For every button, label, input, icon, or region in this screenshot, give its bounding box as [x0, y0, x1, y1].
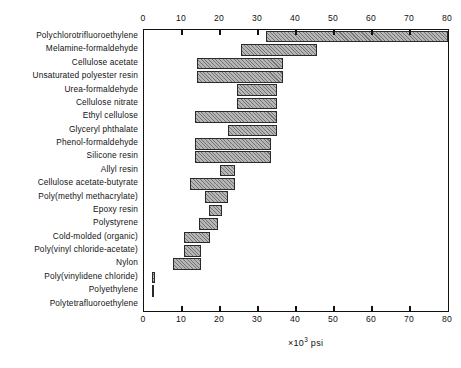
- x-ticklabel-bottom: 40: [282, 314, 308, 324]
- plot-inner: [144, 30, 448, 311]
- bar-range: [197, 71, 283, 83]
- bar-range: [197, 58, 283, 70]
- x-ticklabel-top: 20: [206, 13, 232, 23]
- bar-range: [184, 245, 201, 257]
- x-tick-bottom: [181, 306, 182, 312]
- x-tick-bottom: [409, 306, 410, 312]
- x-axis-title-suffix: psi: [311, 338, 323, 348]
- plot-area: [143, 29, 449, 312]
- category-label: Cold-molded (organic): [53, 230, 138, 243]
- x-axis-title-prefix: ×10: [288, 338, 304, 348]
- x-ticklabel-bottom: 70: [396, 314, 422, 324]
- bar-range: [184, 232, 211, 244]
- x-tick-top: [257, 29, 258, 35]
- category-label: Cellulose acetate: [72, 56, 138, 69]
- category-label: Poly(methyl methacrylate): [38, 190, 138, 203]
- x-tick-top: [333, 29, 334, 35]
- x-axis-title-exponent: 3: [304, 336, 308, 343]
- category-label: Polystyrene: [93, 216, 138, 229]
- x-ticklabel-bottom: 80: [434, 314, 460, 324]
- category-label: Silicone resin: [87, 149, 138, 162]
- x-tick-top: [371, 29, 372, 35]
- x-ticklabel-top: 10: [168, 13, 194, 23]
- category-label: Cellulose nitrate: [76, 96, 138, 109]
- category-label: Cellulose acetate-butyrate: [38, 176, 138, 189]
- x-ticklabel-bottom: 0: [130, 314, 156, 324]
- x-ticklabel-bottom: 60: [358, 314, 384, 324]
- category-label: Unsaturated polyester resin: [32, 69, 138, 82]
- category-label: Melamine-formaldehyde: [46, 42, 138, 55]
- x-ticklabel-top: 40: [282, 13, 308, 23]
- category-label: Allyl resin: [101, 163, 138, 176]
- x-tick-bottom: [219, 306, 220, 312]
- x-tick-top: [295, 29, 296, 35]
- bar-range: [237, 84, 277, 96]
- category-label: Poly(vinyl chloride-acetate): [34, 243, 138, 256]
- x-ticklabel-bottom: 10: [168, 314, 194, 324]
- x-tick-bottom: [371, 306, 372, 312]
- category-label: Polytetrafluoroethylene: [50, 297, 138, 310]
- x-ticklabel-bottom: 30: [244, 314, 270, 324]
- category-label: Polyethylene: [89, 283, 138, 296]
- x-tick-bottom: [333, 306, 334, 312]
- x-tick-top: [181, 29, 182, 35]
- category-label: Urea-formaldehyde: [64, 83, 138, 96]
- category-label: Nylon: [116, 256, 138, 269]
- bar-range: [241, 44, 317, 56]
- bar-range: [228, 125, 277, 137]
- category-label: Polychlorotrifluoroethylene: [36, 29, 138, 42]
- bar-range: [195, 111, 277, 123]
- x-ticklabel-top: 30: [244, 13, 270, 23]
- bar-range: [199, 218, 218, 230]
- bar-range: [195, 138, 271, 150]
- x-ticklabel-bottom: 50: [320, 314, 346, 324]
- tensile-strength-chart: PolychlorotrifluoroethyleneMelamine-form…: [0, 0, 461, 368]
- category-label: Ethyl cellulose: [83, 109, 138, 122]
- bar-range: [266, 31, 448, 43]
- bar-range: [237, 98, 277, 110]
- bar-range: [152, 272, 156, 284]
- x-ticklabel-top: 80: [434, 13, 460, 23]
- category-label: Phenol-formaldehyde: [56, 136, 138, 149]
- x-ticklabel-top: 0: [130, 13, 156, 23]
- x-axis-ticklabels-bottom: 01020304050607080: [143, 314, 447, 328]
- x-ticklabel-top: 50: [320, 13, 346, 23]
- x-tick-bottom: [295, 306, 296, 312]
- x-tick-top: [219, 29, 220, 35]
- bar-range: [195, 151, 271, 163]
- category-label: Glyceryl phthalate: [69, 123, 138, 136]
- x-axis-title: ×103 psi: [288, 338, 323, 348]
- x-tick-top: [409, 29, 410, 35]
- x-tick-bottom: [257, 306, 258, 312]
- bar-range: [190, 178, 236, 190]
- bar-range: [220, 165, 235, 177]
- category-label: Epoxy resin: [93, 203, 138, 216]
- bar-range: [152, 285, 154, 297]
- x-axis-ticklabels-top: 01020304050607080: [143, 13, 447, 27]
- x-ticklabel-top: 70: [396, 13, 422, 23]
- bar-range: [209, 205, 222, 217]
- bar-range: [205, 191, 228, 203]
- x-ticklabel-bottom: 20: [206, 314, 232, 324]
- category-label-column: PolychlorotrifluoroethyleneMelamine-form…: [0, 22, 141, 310]
- bar-range: [173, 258, 202, 270]
- x-ticklabel-top: 60: [358, 13, 384, 23]
- category-label: Poly(vinylidene chloride): [44, 270, 138, 283]
